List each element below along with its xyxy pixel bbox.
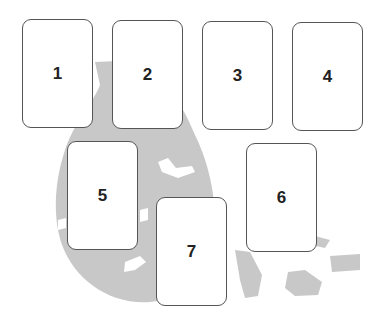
card-number: 2 <box>143 65 152 85</box>
card-1: 1 <box>22 19 93 128</box>
card-number: 4 <box>323 67 332 87</box>
card-number: 7 <box>187 242 196 262</box>
card-number: 5 <box>98 186 107 206</box>
card-6: 6 <box>246 143 317 252</box>
card-4: 4 <box>292 22 363 131</box>
card-2: 2 <box>112 20 183 129</box>
card-7: 7 <box>156 197 227 306</box>
card-5: 5 <box>67 141 138 250</box>
card-number: 1 <box>53 64 62 84</box>
card-number: 6 <box>277 188 286 208</box>
card-number: 3 <box>233 66 242 86</box>
card-3: 3 <box>202 21 273 130</box>
